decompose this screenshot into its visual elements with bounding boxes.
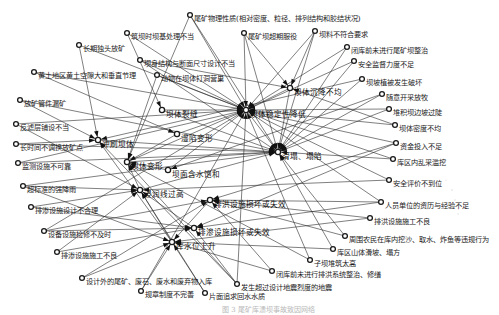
node-circle-icon: [42, 229, 47, 234]
node-circle-icon: [387, 178, 392, 183]
node-circle-icon: [188, 13, 193, 18]
cause-node: 安全监督力度不足: [352, 59, 414, 69]
node-circle-icon: [29, 205, 34, 210]
node-label: 随意开采放牧: [386, 93, 428, 102]
hub-label: 坝体变形: [131, 161, 163, 171]
figure-caption: 图 3 尾矿库溃坝事故致因网络: [222, 305, 315, 314]
node-label: 设备设施检修不及时: [48, 230, 111, 239]
node-label: 动物在坝体打洞营巢: [161, 74, 224, 83]
cause-node: 尾矿坝超期服役: [242, 31, 297, 41]
node-circle-icon: [159, 107, 164, 112]
cause-node: 闭库前未进行排洪系统整治、修缮: [270, 269, 381, 279]
node-label: 资金投入不足: [400, 142, 442, 151]
node-label: 坝坡植被发生破坏: [366, 78, 422, 87]
node-circle-icon: [275, 149, 280, 154]
node-label: 安全监督力度不足: [358, 60, 414, 69]
edge-n9-h1: [246, 61, 354, 110]
cause-node: 黄土地区黄土空隙大和垂直节理: [32, 70, 136, 80]
node-circle-icon: [331, 247, 336, 252]
node-circle-icon: [243, 107, 248, 112]
node-label: 超标准的强降雨: [27, 185, 76, 194]
node-layer: 尾矿物理性质(相对密度、粒径、排列结构和胶结状况)筑坝时坝基处理不当尾矿坝超期服…: [14, 13, 489, 301]
cause-node: 反滤层铺设不当: [14, 122, 69, 132]
node-circle-icon: [207, 197, 212, 202]
cause-node: 坝坡植被发生破坏: [360, 77, 422, 87]
hub-node: 滑塌、塌陷: [275, 149, 322, 161]
node-circle-icon: [14, 142, 19, 147]
node-circle-icon: [391, 157, 396, 162]
cause-node: 坝体密度不均: [393, 123, 441, 133]
node-label: 坝体密度不均: [399, 124, 441, 133]
cause-node: 长时间不调换放矿点: [14, 142, 83, 152]
node-circle-icon: [394, 141, 399, 146]
node-label: 闭库前未进行排洪系统整治、修缮: [276, 270, 381, 279]
hub-label: 排渗设施损坏或失效: [198, 227, 270, 237]
node-label: 人员单位的资历与经验不足: [385, 201, 469, 210]
edge-n3-h12: [244, 33, 290, 88]
node-circle-icon: [21, 184, 26, 189]
node-label: 黄土地区黄土空隙大和垂直节理: [38, 71, 136, 80]
cause-node: 坝料不符合要求: [313, 29, 368, 39]
node-label: 坝身结构与断面尺寸设计不当: [144, 59, 235, 68]
cause-node: 资金投入不足: [394, 141, 442, 151]
cause-node: 发生超过设计地震烈度的地震: [235, 282, 332, 292]
node-circle-icon: [345, 45, 350, 50]
cause-node: 坝身结构与断面尺寸设计不当: [138, 58, 235, 68]
node-label: 排渗设施设计不合理: [35, 206, 98, 215]
node-circle-icon: [95, 137, 100, 142]
node-label: 反滤层铺设不当: [20, 123, 69, 132]
node-circle-icon: [203, 291, 208, 296]
cause-node: 筑坝时坝基处理不当: [125, 31, 194, 41]
edge-n3-h1: [244, 33, 246, 110]
node-circle-icon: [138, 58, 143, 63]
hub-label: 坝体沉降不均: [294, 87, 342, 97]
hub-label: 冲刷坝体: [102, 139, 134, 149]
node-circle-icon: [55, 250, 60, 255]
cause-node: 周围农民在库内挖沙、取水、炸鱼等违规行为: [343, 234, 489, 244]
hub-node: 冲刷坝体: [95, 137, 134, 149]
cause-node: 排渗设施施工不良: [55, 250, 117, 260]
hub-node: 坝体沉降不均: [287, 85, 342, 97]
edge-n4-h1: [246, 31, 315, 110]
cause-node: 长期独头放矿: [77, 43, 125, 53]
node-circle-icon: [14, 122, 19, 127]
node-circle-icon: [270, 269, 275, 274]
cause-node: 随意开采放牧: [380, 92, 428, 102]
edge-n22-h5: [140, 180, 389, 190]
node-circle-icon: [191, 225, 196, 230]
node-circle-icon: [155, 73, 160, 78]
node-circle-icon: [137, 187, 142, 192]
edge-n13-h2: [278, 94, 382, 152]
edge-n33-h4: [127, 162, 237, 284]
hub-label: 滑塌、塌陷: [282, 151, 322, 161]
edge-n33-h1: [237, 110, 246, 284]
node-label: 坝料不符合要求: [319, 30, 368, 39]
hub-node: 排渗设施损坏或失效: [191, 225, 270, 237]
hub-label: 坝面含水饱和: [172, 169, 220, 179]
node-label: 尾矿物理性质(相对密度、粒径、排列结构和胶结状况): [194, 14, 361, 23]
node-circle-icon: [125, 31, 130, 36]
cause-node: 库区山体滑坡、塌方: [331, 247, 400, 257]
node-label: 安全评价不到位: [393, 179, 442, 188]
hub-node: 浸润线过高: [137, 187, 184, 199]
node-label: 排洪设施施工不良: [374, 217, 430, 226]
node-label: 库区山体滑坡、塌方: [337, 248, 400, 257]
accident-causation-network: 尾矿物理性质(相对密度、粒径、排列结构和胶结状况)筑坝时坝基处理不当尾矿坝超期服…: [0, 0, 499, 315]
node-label: 周围农民在库内挖沙、取水、炸鱼等违规行为: [349, 235, 489, 244]
hub-node: 坝体裂缝: [159, 107, 198, 119]
edge-n31-h6: [82, 242, 172, 278]
hub-label: 湿陷变形: [181, 133, 213, 143]
cause-node: 子坝堆筑太高: [308, 258, 356, 268]
node-circle-icon: [393, 123, 398, 128]
node-label: 库区内乱采滥挖: [397, 158, 446, 167]
hub-label: 坝体稳定性降低: [250, 109, 306, 119]
cause-node: 安全评价不到位: [387, 178, 442, 188]
node-label: 尾矿坝超期服役: [248, 32, 297, 41]
node-circle-icon: [139, 289, 144, 294]
node-label: 发生超过设计地震烈度的地震: [241, 283, 332, 292]
edge-n29-h2: [278, 152, 333, 249]
node-circle-icon: [80, 276, 85, 281]
edge-h4-h2: [127, 152, 278, 162]
edge-n15-h5: [16, 124, 140, 190]
cause-node: 库区内乱采滥挖: [391, 157, 446, 167]
